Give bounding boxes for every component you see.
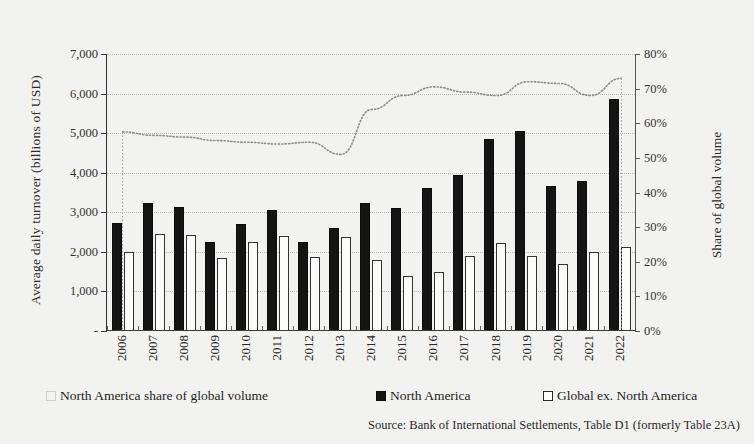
share-swatch-icon — [46, 391, 56, 401]
x-axis-tick-label: 2022 — [612, 335, 628, 361]
chart-figure: Average daily turnover (billions of USD)… — [0, 0, 754, 444]
y-axis-left-tick-label: 7,000 — [70, 47, 98, 62]
legend-item[interactable]: Global ex. North America — [543, 388, 697, 404]
x-axis-tick: 2019 — [511, 333, 542, 379]
x-axis-labels: 2006200720082009201020112012201320142015… — [106, 333, 636, 379]
x-axis-tick-label: 2009 — [207, 335, 223, 361]
y-axis-right-tick-label: 30% — [644, 220, 667, 235]
y-axis-right-tick-label: 50% — [644, 150, 667, 165]
legend-item-label: Global ex. North America — [557, 388, 697, 404]
x-axis-tick: 2008 — [168, 333, 199, 379]
x-axis-tick: 2017 — [449, 333, 480, 379]
y-axis-right-tick-label: 60% — [644, 116, 667, 131]
x-axis-tick-label: 2018 — [488, 335, 504, 361]
share-line-series — [107, 54, 637, 331]
y-axis-right-tick — [635, 331, 640, 332]
x-axis-tick-label: 2019 — [519, 335, 535, 361]
x-axis-tick: 2022 — [605, 333, 636, 379]
x-axis-tick-label: 2021 — [581, 335, 597, 361]
x-axis-tick: 2007 — [137, 333, 168, 379]
x-axis-tick: 2011 — [262, 333, 293, 379]
global-ex-na-swatch-icon — [543, 391, 553, 401]
y-axis-right-title: Share of global volume — [706, 60, 728, 330]
x-axis-tick-label: 2016 — [425, 335, 441, 361]
y-axis-right-tick-label: 70% — [644, 81, 667, 96]
x-axis-tick-label: 2012 — [301, 335, 317, 361]
x-axis-tick-label: 2011 — [269, 335, 285, 361]
x-axis-tick: 2006 — [106, 333, 137, 379]
legend-item-label: North America share of global volume — [60, 388, 268, 404]
share-line-path — [123, 78, 622, 154]
y-axis-left-tick-label: 5,000 — [70, 126, 98, 141]
north-america-swatch-icon — [376, 391, 386, 401]
y-axis-right-tick-label: 0% — [644, 324, 661, 339]
x-axis-tick: 2010 — [231, 333, 262, 379]
x-axis-tick: 2020 — [542, 333, 573, 379]
x-axis-tick: 2012 — [293, 333, 324, 379]
x-axis-tick-label: 2017 — [456, 335, 472, 361]
x-axis-tick-label: 2015 — [394, 335, 410, 361]
y-axis-left-tick-label: 4,000 — [70, 165, 98, 180]
x-axis-tick-label: 2008 — [176, 335, 192, 361]
chart-legend: North America share of global volumeNort… — [46, 385, 712, 407]
x-axis-tick: 2021 — [574, 333, 605, 379]
plot-area: -1,0002,0003,0004,0005,0006,0007,000 0%1… — [106, 54, 636, 331]
y-axis-right-tick-label: 10% — [644, 289, 667, 304]
x-axis-tick-label: 2014 — [363, 335, 379, 361]
y-axis-right-tick-label: 20% — [644, 254, 667, 269]
y-axis-right-tick-label: 40% — [644, 185, 667, 200]
y-axis-left-tick-label: 6,000 — [70, 86, 98, 101]
x-axis-tick: 2014 — [355, 333, 386, 379]
y-axis-left-tick — [101, 331, 107, 332]
source-note: Source: Bank of International Settlement… — [0, 418, 740, 433]
x-axis-tick-label: 2013 — [332, 335, 348, 361]
y-axis-left-tick-label: 1,000 — [70, 284, 98, 299]
x-axis-tick-label: 2010 — [238, 335, 254, 361]
y-axis-left-tick-label: 3,000 — [70, 205, 98, 220]
x-axis-tick-label: 2020 — [550, 335, 566, 361]
x-axis-tick: 2018 — [480, 333, 511, 379]
x-axis-tick-label: 2006 — [114, 335, 130, 361]
legend-item[interactable]: North America share of global volume — [46, 388, 268, 404]
x-axis-baseline — [106, 330, 636, 331]
x-axis-tick-label: 2007 — [145, 335, 161, 361]
x-axis-tick: 2016 — [418, 333, 449, 379]
x-axis-tick: 2013 — [324, 333, 355, 379]
legend-item-label: North America — [390, 388, 471, 404]
y-axis-left-title: Average daily turnover (billions of USD) — [24, 48, 48, 332]
y-axis-left-tick-label: 2,000 — [70, 244, 98, 259]
y-axis-right-tick-label: 80% — [644, 47, 667, 62]
x-axis-tick: 2015 — [387, 333, 418, 379]
legend-item[interactable]: North America — [376, 388, 471, 404]
y-axis-left-tick-label: - — [94, 324, 98, 339]
x-axis-tick: 2009 — [200, 333, 231, 379]
